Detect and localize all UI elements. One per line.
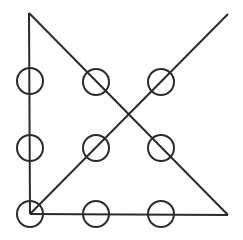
figure-canvas [0,0,243,240]
bottom-horizontal-line [30,214,228,215]
lines-group [29,13,228,215]
figure-svg [0,0,243,240]
left-vertical-line [29,13,30,214]
